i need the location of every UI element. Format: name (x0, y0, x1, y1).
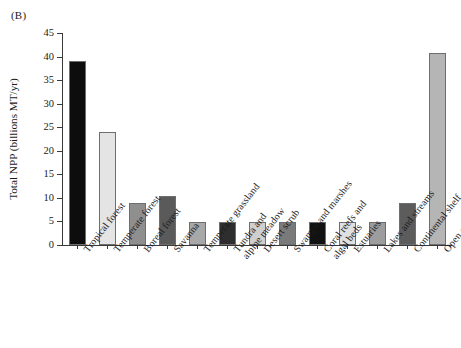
y-tick-label: 15 (44, 169, 55, 180)
x-axis-label: Boreal forest (142, 248, 151, 255)
x-axis-label: Tundra andalpine meadow (232, 248, 249, 261)
y-tick-label: 40 (44, 51, 55, 62)
x-axis-label: Swamps and marshes (292, 248, 301, 255)
y-tick-label: 45 (44, 28, 55, 39)
y-axis-title-wrapper: Total NPP (billions MT/yr) (6, 32, 22, 246)
x-axis-category-labels: Tropical forestTemperate forestBoreal fo… (62, 248, 452, 348)
x-axis-label: Tropical forest (82, 248, 91, 255)
panel-label: (B) (11, 10, 26, 21)
y-tick-label: 10 (44, 193, 55, 204)
x-axis-label: Lakes and streams (382, 248, 391, 255)
y-axis-title: Total NPP (billions MT/yr) (8, 78, 19, 200)
y-tick-label: 25 (44, 122, 55, 133)
x-axis-label: Temperate forest (112, 248, 121, 255)
y-tick-label: 20 (44, 146, 55, 157)
y-tick-label: 5 (49, 216, 54, 227)
x-axis-label: Open ocean (442, 248, 451, 255)
y-tick-label: 0 (49, 240, 54, 251)
x-axis-label: Coral reefs andalgal beds (322, 248, 339, 261)
y-tick-label: 35 (44, 75, 55, 86)
y-tick-label: 30 (44, 98, 55, 109)
x-axis-label: Savanna (172, 248, 181, 255)
x-axis-label: Continental shelf (412, 248, 421, 255)
figure-panel-b: (B) Total NPP (billions MT/yr) 051015202… (0, 0, 461, 348)
x-axis-label: Estuaries (352, 248, 361, 255)
y-tick-mark (57, 245, 62, 246)
x-axis-label: Temperate grassland (202, 248, 211, 255)
bar (69, 61, 86, 245)
x-axis-label: Desert scrub (262, 248, 271, 255)
